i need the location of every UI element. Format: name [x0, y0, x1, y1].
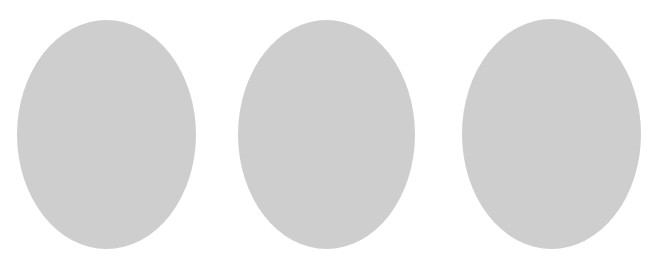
canvas: [0, 0, 655, 268]
gray-ellipse-2: [238, 20, 415, 249]
gray-ellipse-1: [17, 20, 196, 249]
gray-ellipse-3: [462, 19, 641, 249]
